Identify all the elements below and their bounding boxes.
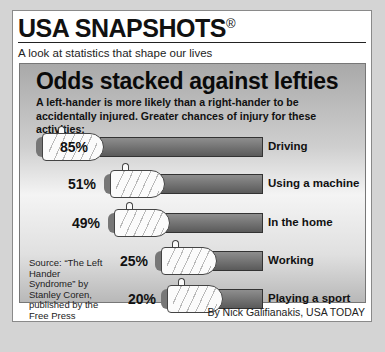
category-label: Driving bbox=[268, 140, 308, 152]
percent-value: 49% bbox=[72, 215, 100, 231]
percent-value: 85% bbox=[60, 139, 88, 155]
bar bbox=[165, 213, 263, 233]
header-rule bbox=[18, 42, 366, 43]
arm-cast-icon bbox=[110, 170, 165, 198]
chart-row-using-a-machine: 51% Using a machine bbox=[0, 170, 385, 200]
source-note: Source: “The Left Hander Syndrome” by St… bbox=[29, 258, 109, 322]
arm-cast-icon bbox=[161, 247, 217, 275]
chart-row-driving: 85% Driving bbox=[0, 133, 385, 163]
category-label: Using a machine bbox=[268, 177, 359, 189]
chart-title: Odds stacked against lefties bbox=[36, 68, 338, 95]
bar bbox=[160, 174, 263, 194]
bar bbox=[212, 251, 263, 271]
arm-cast-icon bbox=[114, 209, 170, 237]
category-label: In the home bbox=[268, 216, 333, 228]
category-label: Playing a sport bbox=[268, 292, 350, 304]
chart-subtitle: A left-hander is more likely than a righ… bbox=[36, 96, 356, 137]
percent-value: 51% bbox=[68, 176, 96, 192]
bar bbox=[100, 137, 263, 157]
category-label: Working bbox=[268, 254, 314, 266]
brand-title: USA SNAPSHOTS® bbox=[18, 14, 235, 43]
percent-value: 25% bbox=[120, 253, 148, 269]
percent-value: 20% bbox=[128, 291, 156, 307]
tagline: A look at statistics that shape our live… bbox=[18, 47, 212, 59]
byline: By Nick Galifianakis, USA TODAY bbox=[207, 306, 365, 318]
chart-row-in-the-home: 49% In the home bbox=[0, 209, 385, 239]
